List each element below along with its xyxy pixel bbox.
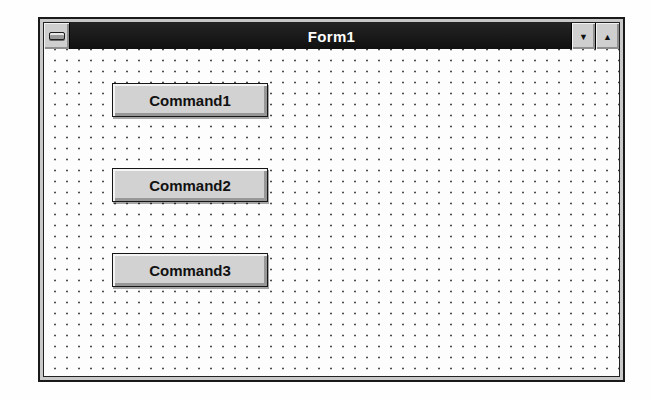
page-background: Form1 ▼ ▲ Command1 Command2 Command3 (0, 0, 651, 400)
maximize-button[interactable]: ▲ (595, 23, 619, 49)
form-canvas[interactable]: Command1 Command2 Command3 (44, 49, 619, 376)
control-menu-button[interactable] (44, 23, 70, 49)
command2-button[interactable]: Command2 (112, 168, 268, 202)
minimize-button[interactable]: ▼ (571, 23, 595, 49)
titlebar[interactable]: Form1 ▼ ▲ (44, 23, 619, 49)
window-buttons: ▼ ▲ (571, 23, 619, 49)
control-menu-icon (49, 32, 65, 40)
window-title: Form1 (44, 23, 619, 49)
command1-button[interactable]: Command1 (112, 83, 268, 117)
form-designer-window: Form1 ▼ ▲ Command1 Command2 Command3 (38, 17, 625, 382)
maximize-icon: ▲ (603, 32, 612, 41)
command3-button[interactable]: Command3 (112, 253, 268, 287)
window-inner: Form1 ▼ ▲ Command1 Command2 Command3 (43, 22, 620, 377)
window-resize-frame[interactable]: Form1 ▼ ▲ Command1 Command2 Command3 (40, 19, 623, 380)
minimize-icon: ▼ (579, 32, 588, 41)
